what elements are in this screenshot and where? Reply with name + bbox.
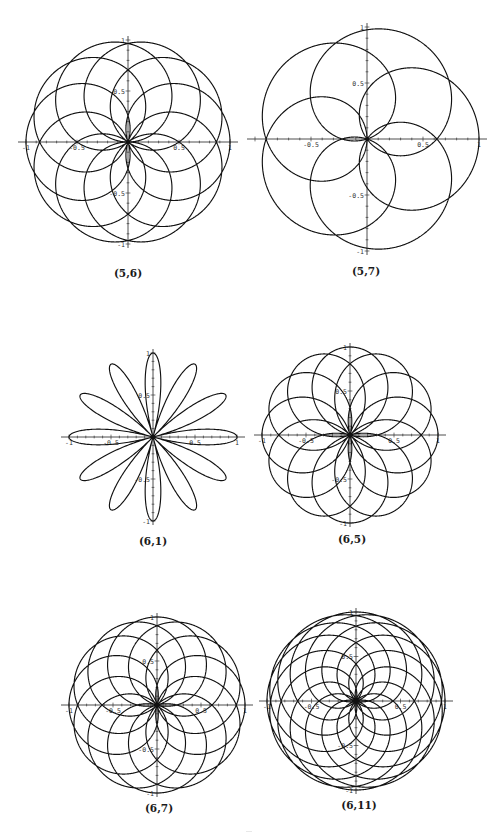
x-tick-label: 1 — [235, 439, 239, 447]
y-tick-label: -0.5 — [348, 192, 364, 200]
y-tick-label: -1 — [142, 518, 150, 526]
plot-svg: -1-0.50.5110.5-0.5-1 — [253, 598, 459, 804]
plot-svg: -1-0.50.5110.5-0.5-1 — [12, 26, 244, 258]
x-tick-label: -0.5 — [105, 707, 121, 715]
y-tick-label: 0.5 — [138, 392, 150, 400]
plot-caption-5-6: (5,6) — [114, 267, 142, 279]
page-mark — [246, 831, 252, 832]
y-tick-label: 0.5 — [113, 88, 125, 96]
y-tick-label: -1 — [356, 248, 364, 256]
y-tick-label: 0.5 — [335, 388, 347, 396]
y-tick-label: -1 — [146, 790, 154, 798]
plot-caption-6-7: (6,7) — [145, 802, 173, 814]
plot-caption-5-7: (5,7) — [352, 265, 380, 277]
plot-svg: -1-0.50.5110.5-0.5-1 — [55, 603, 259, 807]
plot-caption-6-5: (6,5) — [338, 533, 366, 545]
plot-svg: -1-0.50.5110.5-0.5-1 — [248, 333, 452, 537]
plot-svg: -1-0.50.5110.5-0.5-1 — [55, 339, 251, 535]
x-tick-label: 0.5 — [189, 439, 201, 447]
x-tick-label: -0.5 — [103, 439, 119, 447]
x-tick-label: -0.5 — [303, 141, 319, 149]
y-tick-label: -1 — [339, 520, 347, 528]
plot-caption-6-1: (6,1) — [139, 535, 167, 547]
plot-svg: -0.50.5110.5-0.5-1 — [241, 13, 493, 265]
y-tick-label: 0.5 — [352, 80, 364, 88]
plot-caption-6-11: (6,11) — [341, 799, 377, 811]
